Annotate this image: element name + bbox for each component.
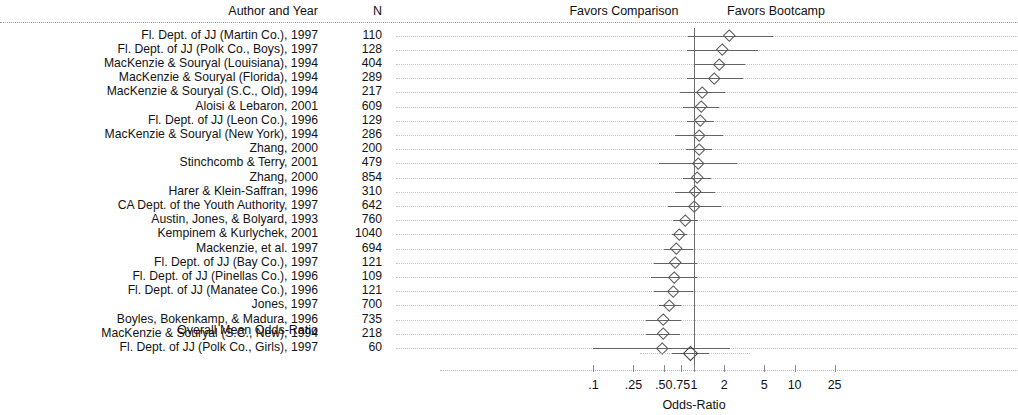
overall-mean-label: Overall Mean Odds-Ratio bbox=[0, 323, 318, 337]
row-guideline bbox=[396, 249, 1018, 250]
x-axis-tick bbox=[633, 365, 634, 372]
study-author-label: Fl. Dept. of JJ (Polk Co., Girls), 1997 bbox=[0, 341, 318, 354]
study-author-label: Zhang, 2000 bbox=[0, 142, 318, 155]
study-sample-size: 854 bbox=[330, 171, 382, 184]
study-sample-size: 110 bbox=[330, 29, 382, 42]
column-header-n: N bbox=[330, 4, 382, 18]
column-header-author: Author and Year bbox=[0, 4, 318, 18]
study-sample-size: 121 bbox=[330, 256, 382, 269]
study-author-label: MacKenzie & Souryal (Florida), 1994 bbox=[0, 71, 318, 84]
study-sample-size: 735 bbox=[330, 313, 382, 326]
effect-size-diamond bbox=[657, 313, 669, 325]
effect-size-diamond bbox=[689, 186, 701, 198]
effect-size-diamond bbox=[669, 257, 681, 269]
study-sample-size: 200 bbox=[330, 142, 382, 155]
study-sample-size: 404 bbox=[330, 57, 382, 70]
effect-size-diamond bbox=[670, 242, 682, 254]
effect-size-diamond bbox=[668, 271, 680, 283]
study-sample-size: 121 bbox=[330, 284, 382, 297]
study-author-label: MacKenzie & Souryal (New York), 1994 bbox=[0, 128, 318, 141]
study-author-label: Austin, Jones, & Bolyard, 1993 bbox=[0, 213, 318, 226]
x-axis-tick bbox=[694, 365, 695, 372]
x-axis-title: Odds-Ratio bbox=[574, 398, 814, 412]
row-guideline bbox=[396, 291, 1018, 292]
effect-size-diamond bbox=[679, 214, 691, 226]
study-sample-size: 289 bbox=[330, 71, 382, 84]
study-sample-size: 1040 bbox=[330, 227, 382, 240]
effect-size-diamond bbox=[723, 29, 735, 41]
x-axis-tick-label: 25 bbox=[805, 378, 865, 392]
study-sample-size: 217 bbox=[330, 85, 382, 98]
study-author-label: Fl. Dept. of JJ (Polk Co., Boys), 1997 bbox=[0, 43, 318, 56]
study-sample-size: 760 bbox=[330, 213, 382, 226]
effect-size-diamond bbox=[663, 299, 675, 311]
study-author-label: MacKenzie & Souryal (Louisiana), 1994 bbox=[0, 57, 318, 70]
study-sample-size: 286 bbox=[330, 128, 382, 141]
row-guideline bbox=[396, 305, 1018, 306]
study-sample-size: 479 bbox=[330, 156, 382, 169]
x-axis-tick bbox=[681, 365, 682, 372]
study-sample-size: 218 bbox=[330, 327, 382, 340]
study-sample-size: 60 bbox=[330, 341, 382, 354]
null-effect-line bbox=[694, 28, 695, 356]
effect-size-diamond bbox=[697, 86, 709, 98]
study-author-label: Fl. Dept. of JJ (Pinellas Co.), 1996 bbox=[0, 270, 318, 283]
effect-size-diamond bbox=[716, 44, 728, 56]
study-sample-size: 128 bbox=[330, 43, 382, 56]
effect-size-diamond bbox=[694, 115, 706, 127]
study-author-label: Harer & Klein-Saffran, 1996 bbox=[0, 185, 318, 198]
x-axis-tick bbox=[795, 365, 796, 372]
effect-size-diamond bbox=[695, 100, 707, 112]
study-author-label: Fl. Dept. of JJ (Martin Co.), 1997 bbox=[0, 29, 318, 42]
study-sample-size: 129 bbox=[330, 114, 382, 127]
study-author-label: Fl. Dept. of JJ (Bay Co.), 1997 bbox=[0, 256, 318, 269]
x-axis-line bbox=[440, 370, 1018, 371]
study-author-label: Fl. Dept. of JJ (Leon Co.), 1996 bbox=[0, 114, 318, 127]
effect-size-diamond bbox=[694, 129, 706, 141]
header-divider bbox=[0, 22, 1018, 23]
effect-size-diamond bbox=[714, 58, 726, 70]
study-author-label: Fl. Dept. of JJ (Manatee Co.), 1996 bbox=[0, 284, 318, 297]
row-guideline bbox=[396, 234, 1018, 235]
favors-comparison-label: Favors Comparison bbox=[548, 4, 700, 18]
row-guideline bbox=[396, 220, 1018, 221]
row-guideline bbox=[396, 277, 1018, 278]
study-author-label: MacKenzie & Souryal (S.C., Old), 1994 bbox=[0, 85, 318, 98]
study-sample-size: 609 bbox=[330, 100, 382, 113]
study-author-label: Aloisi & Lebaron, 2001 bbox=[0, 100, 318, 113]
favors-bootcamp-label: Favors Bootcamp bbox=[700, 4, 852, 18]
effect-size-diamond bbox=[667, 285, 679, 297]
effect-size-diamond bbox=[657, 328, 669, 340]
study-sample-size: 109 bbox=[330, 270, 382, 283]
study-author-label: Kempinem & Kurlychek, 2001 bbox=[0, 227, 318, 240]
effect-size-diamond bbox=[674, 228, 686, 240]
study-author-label: Mackenzie, et al. 1997 bbox=[0, 242, 318, 255]
study-sample-size: 310 bbox=[330, 185, 382, 198]
row-guideline bbox=[396, 263, 1018, 264]
study-author-label: CA Dept. of the Youth Authority, 1997 bbox=[0, 199, 318, 212]
x-axis-tick bbox=[764, 365, 765, 372]
x-axis-tick bbox=[593, 365, 594, 372]
overall-null-line bbox=[694, 341, 695, 365]
study-author-label: Stinchcomb & Terry, 2001 bbox=[0, 156, 318, 169]
study-sample-size: 642 bbox=[330, 199, 382, 212]
row-guideline bbox=[396, 334, 1018, 335]
x-axis-tick bbox=[724, 365, 725, 372]
x-axis-tick bbox=[835, 365, 836, 372]
forest-plot: Author and Year N Favors Comparison Favo… bbox=[0, 0, 1018, 415]
study-sample-size: 694 bbox=[330, 242, 382, 255]
study-author-label: Zhang, 2000 bbox=[0, 171, 318, 184]
row-guideline bbox=[396, 320, 1018, 321]
x-axis-tick bbox=[664, 365, 665, 372]
study-sample-size: 700 bbox=[330, 298, 382, 311]
study-author-label: Jones, 1997 bbox=[0, 298, 318, 311]
effect-size-diamond bbox=[709, 72, 721, 84]
effect-size-diamond bbox=[691, 171, 703, 183]
